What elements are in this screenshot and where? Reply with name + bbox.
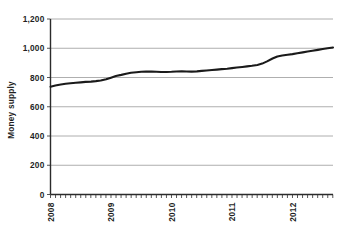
x-tick-label-2008: 2008 [46,202,56,221]
x-tick-label-2010: 2010 [167,202,177,221]
y-tick-label-200: 200 [30,160,45,170]
money-supply-series-line [51,48,334,87]
x-tick-label-2011: 2011 [227,202,237,221]
y-tick-label-600: 600 [30,102,45,112]
x-tick-label-2009: 2009 [106,202,116,221]
x-tick-labels-group: 20082009201020112012 [46,202,298,221]
money-supply-line-chart: 02004006008001,0001,200 2008200920102011… [0,0,347,249]
y-tick-label-1200: 1,200 [23,14,45,24]
y-tick-labels-group: 02004006008001,0001,200 [23,14,45,200]
y-tick-label-400: 400 [30,131,45,141]
y-tick-label-1000: 1,000 [23,43,45,53]
y-tick-label-800: 800 [30,73,45,83]
gridlines-group [51,19,334,165]
y-axis-title: Money supply [6,81,16,139]
y-tick-label-0: 0 [40,190,45,200]
x-tick-label-2012: 2012 [288,202,298,221]
chart-canvas: 02004006008001,0001,200 2008200920102011… [0,0,347,249]
